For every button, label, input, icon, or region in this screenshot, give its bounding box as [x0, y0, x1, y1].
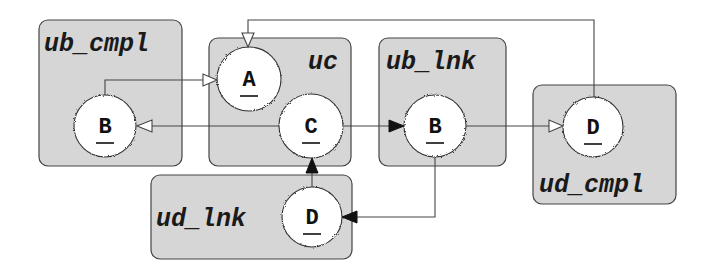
component-label: ub_lnk	[386, 48, 477, 77]
node-ud-lnk-D[interactable]: D	[282, 187, 342, 247]
node-label: D	[586, 116, 599, 141]
node-label: C	[304, 115, 317, 140]
node-uc-A[interactable]: A	[217, 47, 281, 111]
component-label: uc	[308, 48, 338, 77]
component-label: ub_cmpl	[44, 30, 149, 59]
node-label: D	[305, 206, 318, 231]
component-label: ud_cmpl	[539, 171, 644, 200]
node-label: B	[98, 115, 111, 140]
node-ud-cmpl-D[interactable]: D	[563, 97, 623, 157]
node-ub-cmpl-B[interactable]: B	[74, 95, 136, 157]
node-uc-C[interactable]: C	[279, 94, 343, 158]
node-label: A	[242, 68, 256, 93]
component-label: ud_lnk	[156, 205, 247, 234]
node-ub-lnk-B[interactable]: B	[404, 95, 466, 157]
node-label: B	[428, 115, 441, 140]
component-diagram: ub_cmplucub_lnkud_cmplud_lnk BACBDD	[0, 0, 712, 273]
